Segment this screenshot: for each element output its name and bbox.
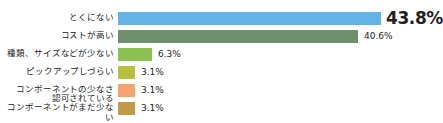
bar bbox=[118, 30, 358, 43]
bar bbox=[118, 102, 135, 115]
bar bbox=[118, 66, 135, 79]
bar bbox=[118, 12, 381, 25]
bar-group: 43.8% bbox=[118, 9, 443, 27]
bar-group: 3.1% bbox=[118, 81, 164, 99]
category-label: ピックアップしづらい bbox=[0, 67, 114, 77]
value-label: 3.1% bbox=[141, 84, 164, 97]
value-label: 40.6% bbox=[364, 30, 393, 43]
value-label: 6.3% bbox=[158, 48, 181, 61]
chart-row: ピックアップしづらい 3.1% bbox=[0, 63, 435, 81]
bar-group: 6.3% bbox=[118, 45, 181, 63]
value-label: 3.1% bbox=[141, 102, 164, 115]
category-label: 種類、サイズなどが少ない bbox=[0, 49, 114, 59]
value-label: 3.1% bbox=[141, 66, 164, 79]
category-label: とくにない bbox=[0, 13, 114, 23]
value-label: 43.8% bbox=[386, 10, 443, 27]
category-label: コストが高い bbox=[0, 31, 114, 41]
chart-row: 認可されている コンポーネントがまだ少ない 3.1% bbox=[0, 99, 435, 117]
bar bbox=[118, 84, 135, 97]
chart-row: コストが高い 40.6% bbox=[0, 27, 435, 45]
bar-group: 3.1% bbox=[118, 63, 164, 81]
category-label: 認可されている コンポーネントがまだ少ない bbox=[0, 94, 114, 123]
bar bbox=[118, 48, 152, 61]
chart-row: とくにない 43.8% bbox=[0, 9, 435, 27]
chart-row: 種類、サイズなどが少ない 6.3% bbox=[0, 45, 435, 63]
bar-group: 3.1% bbox=[118, 99, 164, 117]
bar-group: 40.6% bbox=[118, 27, 393, 45]
